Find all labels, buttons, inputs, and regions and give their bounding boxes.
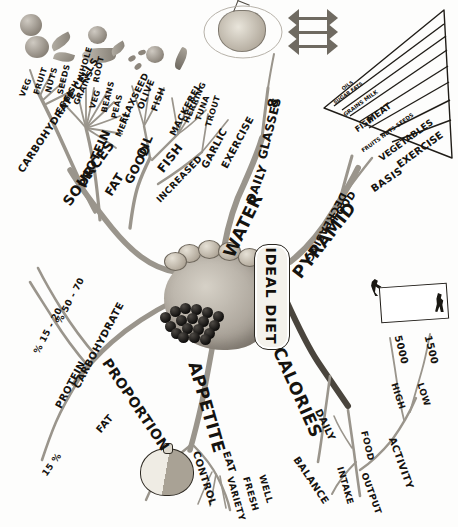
balance-seesaw bbox=[378, 283, 450, 325]
garlic-icon bbox=[218, 10, 266, 52]
beet-icon bbox=[88, 26, 107, 44]
grapes-icon bbox=[158, 302, 240, 340]
olive-icon bbox=[146, 46, 164, 63]
ideal-diet-label: IDEAL DIET bbox=[263, 248, 279, 345]
ideal-diet-title: IDEAL DIET bbox=[254, 244, 288, 348]
stomach-icon bbox=[140, 448, 194, 496]
apple-icon bbox=[25, 36, 49, 58]
apple-icon bbox=[20, 14, 42, 36]
mindmap-canvas: IDEAL DIET bbox=[0, 0, 458, 527]
potato-icon bbox=[164, 252, 187, 271]
